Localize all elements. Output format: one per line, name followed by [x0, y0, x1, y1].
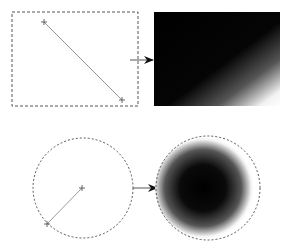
linear-gradient-result	[154, 12, 280, 106]
radial-gradient-result	[155, 137, 257, 239]
drag-line	[47, 188, 82, 224]
radial-gradient-panel	[33, 136, 260, 240]
drag-line	[44, 22, 122, 100]
gradient-diagram	[0, 0, 287, 247]
selection-rect	[12, 12, 138, 106]
linear-gradient-panel	[12, 12, 280, 106]
